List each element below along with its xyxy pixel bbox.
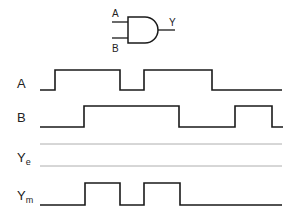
and-gate-icon [112, 17, 175, 43]
signal-b-waveform [40, 106, 283, 127]
gate-body [128, 17, 158, 43]
signal-ym-waveform [40, 183, 282, 205]
signal-ye-label: Ye [17, 150, 31, 167]
signal-a-label: A [17, 76, 26, 91]
gate-input-a-label: A [112, 8, 119, 19]
signal-b-label: B [17, 110, 26, 125]
signal-a-waveform [40, 70, 282, 90]
signal-ym-label: Ym [17, 188, 33, 205]
gate-output-label: Y [169, 17, 176, 28]
gate-input-b-label: B [112, 43, 119, 54]
and-gate-timing-diagram: A B Y A B Ye Ym [0, 0, 301, 220]
